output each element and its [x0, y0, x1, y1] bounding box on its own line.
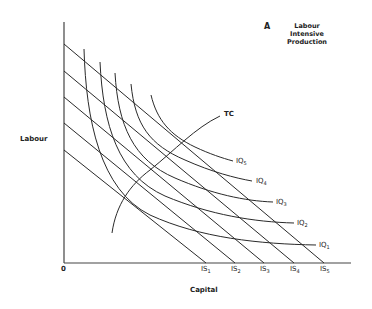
isocost-label-base: IS — [201, 265, 208, 273]
y-axis-label: Labour — [20, 136, 47, 143]
isoquant-label-2: IQ2 — [297, 220, 308, 227]
isocost-label-base: IS — [260, 265, 267, 273]
isocost-label-5: IS5 — [320, 266, 330, 273]
isoquant-label-sub: 5 — [244, 160, 247, 166]
isocost-line-4 — [64, 71, 294, 263]
isoquant-label-base: IQ — [236, 157, 244, 165]
isoquant-label-5: IQ5 — [236, 158, 247, 165]
x-axis-label: Capital — [190, 287, 218, 294]
isoquant-isocost-diagram — [0, 0, 372, 309]
isoquant-label-base: IQ — [319, 241, 327, 249]
isoquant-label-base: IQ — [276, 198, 284, 206]
isoquant-label-sub: 1 — [327, 244, 330, 250]
isoquant-curves — [84, 49, 316, 245]
isocost-label-base: IS — [231, 265, 238, 273]
isoquant-label-sub: 2 — [305, 222, 308, 228]
isocost-label-4: IS4 — [290, 266, 300, 273]
isoquant-label-sub: 3 — [284, 201, 287, 207]
isoquant-label-base: IQ — [256, 177, 264, 185]
isocost-label-3: IS3 — [260, 266, 270, 273]
isocost-label-sub: 5 — [327, 268, 330, 274]
isocost-label-base: IS — [320, 265, 327, 273]
isocost-label-1: IS1 — [201, 266, 211, 273]
isocost-label-sub: 2 — [238, 268, 241, 274]
isoquant-curve-3 — [115, 73, 273, 202]
origin-label: 0 — [61, 266, 66, 273]
isoquant-curve-1 — [84, 49, 316, 245]
isocost-label-sub: 4 — [297, 268, 300, 274]
isocost-line-2 — [64, 123, 235, 263]
panel-letter: A — [264, 22, 270, 31]
isocost-label-sub: 3 — [267, 268, 270, 274]
tc-label: TC — [224, 111, 234, 118]
title-line-1: Labour Intensive — [277, 22, 337, 38]
isoquant-label-sub: 4 — [264, 180, 267, 186]
diagram-title: Labour Intensive Production — [277, 22, 337, 46]
isoquant-label-4: IQ4 — [256, 178, 267, 185]
isoquant-curve-4 — [131, 84, 252, 181]
isoquant-label-1: IQ1 — [319, 242, 330, 249]
isoquant-curve-2 — [100, 62, 294, 223]
isoquant-label-3: IQ3 — [276, 199, 287, 206]
isocost-label-2: IS2 — [231, 266, 241, 273]
title-line-2: Production — [277, 38, 337, 46]
isocost-line-1 — [64, 150, 206, 263]
isocost-label-sub: 1 — [208, 268, 211, 274]
isoquant-label-base: IQ — [297, 219, 305, 227]
isocost-label-base: IS — [290, 265, 297, 273]
